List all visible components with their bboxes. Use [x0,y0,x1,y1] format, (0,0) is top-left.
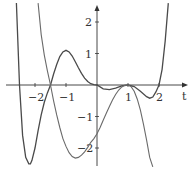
x-tick-label: 1 [125,91,132,104]
t-axis-label: t [182,90,187,103]
y-tick-label: 1 [85,48,92,61]
y-tick-label: −2 [77,142,93,155]
plot: −2−11221−1−2 t [0,0,195,170]
t-axis-arrow-icon [182,83,188,88]
y-tick-label: −1 [77,111,93,124]
y-tick-label: 2 [85,16,92,29]
x-tick-label: −2 [28,91,44,104]
x-tick-label: −1 [59,91,75,104]
y-axis-arrow-icon [95,5,100,11]
x-tick-label: 2 [156,91,163,104]
